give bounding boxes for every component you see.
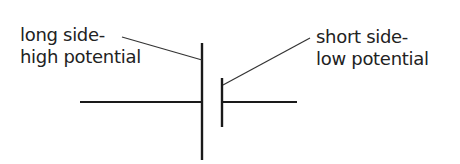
- label-long-side-line1: long side-: [20, 24, 141, 46]
- label-short-side: short side- low potential: [316, 26, 429, 70]
- label-short-side-line1: short side-: [316, 26, 429, 48]
- leader-line-short-side: [223, 38, 310, 85]
- label-long-side-line2: high potential: [20, 46, 141, 68]
- label-long-side: long side- high potential: [20, 24, 141, 68]
- label-short-side-line2: low potential: [316, 48, 429, 70]
